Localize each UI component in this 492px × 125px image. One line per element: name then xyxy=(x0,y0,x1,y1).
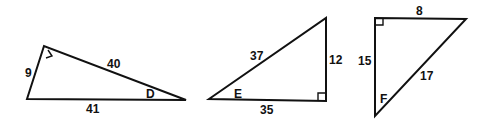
angle-label-e: E xyxy=(234,87,242,101)
triangle-e: 37 12 35 E xyxy=(209,18,343,117)
triangle-e-outline xyxy=(209,18,326,101)
side-label-9: 9 xyxy=(25,66,32,80)
side-label-37: 37 xyxy=(250,49,264,63)
right-angle-marker-d xyxy=(46,50,52,58)
side-label-40: 40 xyxy=(107,57,121,71)
triangle-f: 8 15 17 F xyxy=(358,4,466,116)
right-angle-marker-e xyxy=(318,93,326,101)
angle-label-d: D xyxy=(146,87,155,101)
side-label-35: 35 xyxy=(260,103,274,117)
triangle-f-outline xyxy=(375,18,466,116)
side-label-8: 8 xyxy=(416,4,423,18)
triangles-diagram: 9 40 41 D 37 12 35 E 8 15 17 F xyxy=(0,0,492,125)
side-label-15: 15 xyxy=(358,54,372,68)
triangle-d: 9 40 41 D xyxy=(25,46,186,116)
angle-label-f: F xyxy=(380,92,387,106)
side-label-17: 17 xyxy=(420,69,434,83)
side-label-12: 12 xyxy=(329,53,343,67)
side-label-41: 41 xyxy=(86,102,100,116)
